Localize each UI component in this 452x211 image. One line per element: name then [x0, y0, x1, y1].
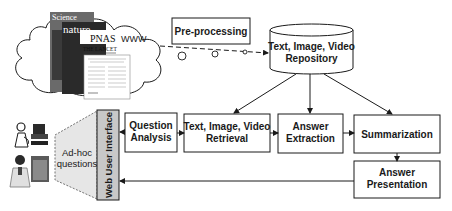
repository-label-line1: Text, Image, Video: [268, 41, 355, 52]
answer-extraction-line1: Answer: [292, 121, 328, 132]
pnas-title: PNAS: [90, 33, 116, 44]
repository-cylinder: Text, Image, Video Repository: [268, 24, 355, 74]
preprocessing-box: Pre-processing: [172, 18, 250, 44]
answer-presentation-box: Answer Presentation: [354, 161, 440, 198]
questions-label-line1: Ad-hoc: [62, 147, 92, 158]
repository-label-line2: Repository: [285, 53, 338, 64]
repository-arrows: [234, 74, 392, 114]
summarization-box: Summarization: [354, 115, 440, 153]
bubble-large: [178, 52, 186, 60]
question-analysis-line1: Question: [129, 120, 172, 131]
question-analysis-line2: Analysis: [130, 132, 172, 143]
bubble-medium: [212, 51, 218, 57]
questions-label-line2: questions: [57, 158, 98, 169]
retrieval-line1: Text, Image, Video: [184, 121, 271, 132]
question-analysis-box: Question Analysis: [125, 113, 177, 152]
answer-extraction-line2: Extraction: [286, 133, 335, 144]
summarization-label: Summarization: [361, 129, 433, 140]
user-icons: [10, 123, 49, 187]
answer-extraction-box: Answer Extraction: [278, 114, 343, 153]
preprocessing-label: Pre-processing: [175, 26, 248, 37]
web-ui-label: Web User Interface: [103, 112, 114, 198]
retrieval-box: Text, Image, Video Retrieval: [184, 114, 271, 152]
preprocessing-flow: [160, 46, 268, 60]
web-user-interface-panel: Web User Interface: [97, 110, 119, 200]
science-title: Science: [52, 13, 77, 22]
www-label: WWW: [121, 34, 147, 44]
doctor-photo-icon: [10, 155, 49, 187]
answer-presentation-line2: Presentation: [367, 179, 428, 190]
answer-presentation-line1: Answer: [379, 167, 415, 178]
clinician-computer-icon: [15, 123, 48, 147]
bubble-small: [243, 50, 247, 54]
ad-hoc-questions-funnel: Ad-hoc questions: [55, 111, 98, 199]
article-page: [84, 55, 130, 99]
qa-system-diagram: Science nature PNAS THE LANCET WWW Pre-p…: [0, 0, 452, 211]
retrieval-line2: Retrieval: [206, 133, 248, 144]
lancet-title: THE LANCET: [83, 46, 117, 52]
